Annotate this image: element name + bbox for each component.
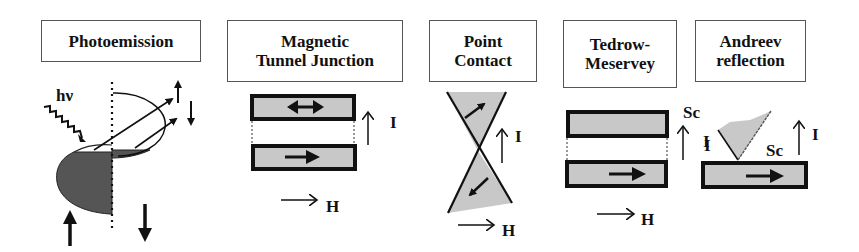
current-label: I — [390, 113, 397, 132]
mtj-diagram: I H — [252, 96, 397, 216]
occupied-states-shape — [57, 152, 112, 214]
photon-wave-icon — [44, 106, 82, 138]
field-label: H — [502, 221, 515, 240]
superconducting-tip — [718, 111, 771, 160]
photon-label: hν — [56, 86, 73, 105]
point-contact-diagram: I H — [447, 92, 522, 240]
diagram-canvas: hν I H I — [0, 0, 859, 252]
emission-arrow-long — [94, 99, 172, 150]
current-label: I — [812, 125, 819, 144]
emission-arc — [113, 93, 165, 156]
superconductor-layer — [568, 112, 667, 136]
tedrow-meservey-diagram: Sc I H — [567, 103, 710, 229]
field-label: H — [641, 210, 654, 229]
field-label: H — [326, 197, 339, 216]
interface-current-label: I — [704, 136, 711, 155]
current-label: I — [515, 127, 522, 146]
photoemission-diagram: hν — [44, 82, 191, 246]
andreev-diagram: I Sc I — [703, 111, 819, 187]
superconductor-label: Sc — [766, 141, 783, 160]
superconductor-label: Sc — [683, 103, 700, 122]
